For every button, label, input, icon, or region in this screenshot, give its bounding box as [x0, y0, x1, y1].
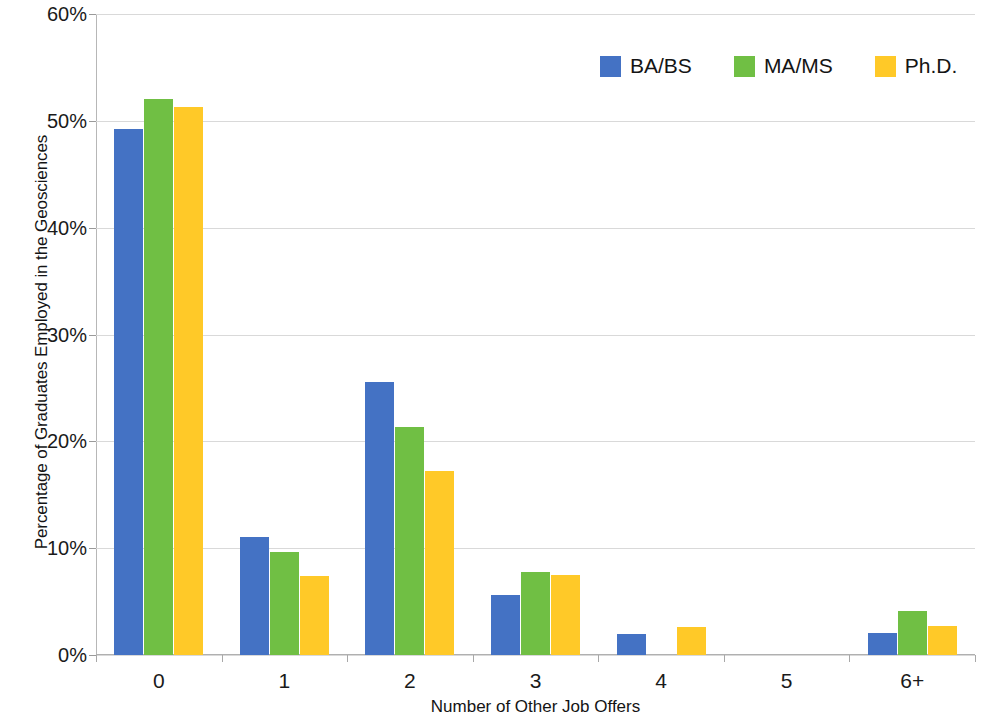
bar	[300, 576, 329, 655]
bar	[114, 129, 143, 655]
x-tick-mark	[849, 655, 850, 662]
x-tick-label: 0	[99, 669, 219, 693]
y-tick-mark	[89, 335, 96, 336]
y-tick-label: 60%	[17, 3, 87, 26]
legend-item: Ph.D.	[875, 54, 958, 78]
y-tick-label: 30%	[17, 323, 87, 346]
x-tick-mark	[222, 655, 223, 662]
plot-area: 0%10%20%30%40%50%60%0123456+	[96, 14, 975, 655]
x-tick-label: 6+	[852, 669, 972, 693]
x-tick-mark	[598, 655, 599, 662]
y-tick-label: 0%	[17, 644, 87, 667]
bar-group	[849, 14, 975, 655]
legend-label: Ph.D.	[905, 54, 958, 78]
y-tick-label: 40%	[17, 216, 87, 239]
bar	[898, 611, 927, 655]
bar	[491, 595, 520, 655]
legend-swatch	[734, 56, 755, 77]
bar-group	[473, 14, 599, 655]
y-tick-label: 10%	[17, 537, 87, 560]
bar-group	[347, 14, 473, 655]
bar-group	[96, 14, 222, 655]
y-tick-mark	[89, 655, 96, 656]
bar	[928, 626, 957, 655]
x-tick-label: 2	[350, 669, 470, 693]
y-tick-mark	[89, 228, 96, 229]
x-tick-mark	[724, 655, 725, 662]
legend-swatch	[600, 56, 621, 77]
legend-item: BA/BS	[600, 54, 692, 78]
bar	[677, 627, 706, 655]
x-tick-mark	[347, 655, 348, 662]
bar	[270, 552, 299, 655]
x-axis-title: Number of Other Job Offers	[96, 697, 975, 717]
x-tick-label: 1	[224, 669, 344, 693]
legend-label: MA/MS	[764, 54, 833, 78]
bar-group	[724, 14, 850, 655]
bar	[617, 634, 646, 655]
x-tick-mark	[96, 655, 97, 662]
bar	[521, 572, 550, 655]
bar	[365, 382, 394, 655]
bar	[551, 575, 580, 655]
y-tick-mark	[89, 548, 96, 549]
gridline	[96, 655, 975, 656]
x-tick-mark	[975, 655, 976, 662]
legend-item: MA/MS	[734, 54, 833, 78]
bar	[240, 537, 269, 655]
x-tick-label: 3	[476, 669, 596, 693]
bar-chart: Percentage of Graduates Employed in the …	[0, 0, 983, 721]
bar	[174, 107, 203, 655]
bar	[425, 471, 454, 655]
bar	[868, 633, 897, 655]
y-tick-mark	[89, 121, 96, 122]
x-tick-label: 5	[727, 669, 847, 693]
legend-swatch	[875, 56, 896, 77]
bar	[144, 99, 173, 655]
x-tick-label: 4	[601, 669, 721, 693]
y-tick-label: 50%	[17, 109, 87, 132]
y-tick-mark	[89, 441, 96, 442]
y-tick-mark	[89, 14, 96, 15]
legend: BA/BSMA/MSPh.D.	[600, 54, 957, 78]
bar	[395, 427, 424, 655]
bar-group	[222, 14, 348, 655]
y-tick-label: 20%	[17, 430, 87, 453]
bar-group	[598, 14, 724, 655]
x-tick-mark	[473, 655, 474, 662]
legend-label: BA/BS	[630, 54, 692, 78]
